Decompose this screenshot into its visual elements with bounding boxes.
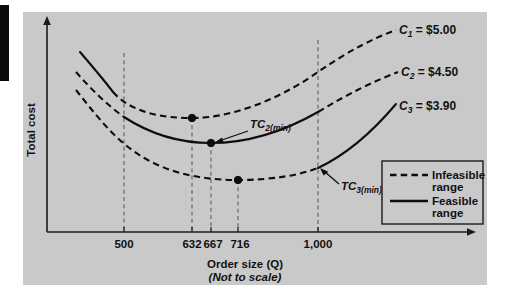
annotation-tc3min: TC3(min) bbox=[320, 168, 382, 195]
total-cost-quantity-discount-chart: C1 = $5.00 C2 = $4.50 C3 = $3.90 TC2(min… bbox=[0, 0, 507, 304]
legend-label-feasible-line2: range bbox=[432, 207, 463, 219]
curve-label-c2: C2 = $4.50 bbox=[401, 65, 458, 81]
x-tick-label-500: 500 bbox=[114, 238, 133, 250]
curve-label-c3-prefix: C bbox=[399, 99, 408, 113]
annotation-tc2min-sub: 2(min) bbox=[264, 123, 291, 133]
curve-labels: C1 = $5.00 C2 = $4.50 C3 = $3.90 bbox=[399, 23, 458, 115]
curve-c3-feasible-segment bbox=[318, 104, 396, 168]
annotation-tc3min-label: TC3(min) bbox=[341, 180, 382, 195]
legend-label-feasible-line1: Feasible bbox=[432, 195, 478, 207]
x-tick-labels: 500 632 667 716 1,000 bbox=[114, 238, 332, 250]
legend-label-infeasible-line2: range bbox=[432, 181, 463, 193]
axis-titles: Order size (Q) (Not to scale) Total cost bbox=[25, 103, 283, 283]
marker-c2-min-667 bbox=[207, 139, 214, 146]
x-tick-label-1000: 1,000 bbox=[304, 238, 333, 250]
curve-c2-infeasible-right bbox=[318, 72, 398, 112]
curve-label-c1: C1 = $5.00 bbox=[399, 23, 456, 39]
curve-c1-infeasible-segment bbox=[113, 30, 396, 118]
curve-c1 bbox=[80, 30, 396, 118]
curve-c3-infeasible-segment bbox=[76, 90, 318, 180]
curve-label-c2-value: = $4.50 bbox=[414, 65, 458, 79]
curve-label-c3: C3 = $3.90 bbox=[399, 99, 456, 115]
minimum-markers bbox=[188, 114, 241, 183]
x-axis-title: Order size (Q) bbox=[207, 258, 283, 270]
legend-label-infeasible-line1: Infeasible bbox=[432, 169, 485, 181]
x-axis-title-note: (Not to scale) bbox=[209, 271, 282, 283]
curve-label-c3-value: = $3.90 bbox=[412, 99, 456, 113]
y-axis-title: Total cost bbox=[25, 103, 37, 157]
curve-label-c2-prefix: C bbox=[401, 65, 410, 79]
annotation-tc2min-prefix: TC bbox=[250, 118, 266, 130]
curve-label-c1-prefix: C bbox=[399, 23, 408, 37]
figure-stage: C1 = $5.00 C2 = $4.50 C3 = $3.90 TC2(min… bbox=[0, 0, 507, 304]
x-tick-label-667: 667 bbox=[203, 238, 222, 250]
curve-c1-feasible-segment bbox=[80, 52, 113, 92]
legend: Infeasible range Feasible range bbox=[382, 161, 485, 224]
annotation-tc3min-leader bbox=[325, 172, 339, 184]
x-tick-label-632: 632 bbox=[182, 238, 201, 250]
marker-c3-min-716 bbox=[234, 176, 241, 183]
curve-label-c1-value: = $5.00 bbox=[412, 23, 456, 37]
annotation-tc3min-prefix: TC bbox=[341, 180, 357, 192]
annotation-tc2min-arrowhead bbox=[214, 138, 224, 143]
vertical-reference-lines bbox=[124, 40, 318, 232]
annotation-tc3min-sub: 3(min) bbox=[356, 185, 382, 195]
x-tick-label-716: 716 bbox=[230, 238, 249, 250]
annotation-tc2min-label: TC2(min) bbox=[250, 118, 291, 133]
x-axis-arrowhead bbox=[467, 228, 476, 236]
marker-c1-min-632 bbox=[188, 114, 195, 121]
y-axis-arrowhead bbox=[43, 16, 51, 25]
